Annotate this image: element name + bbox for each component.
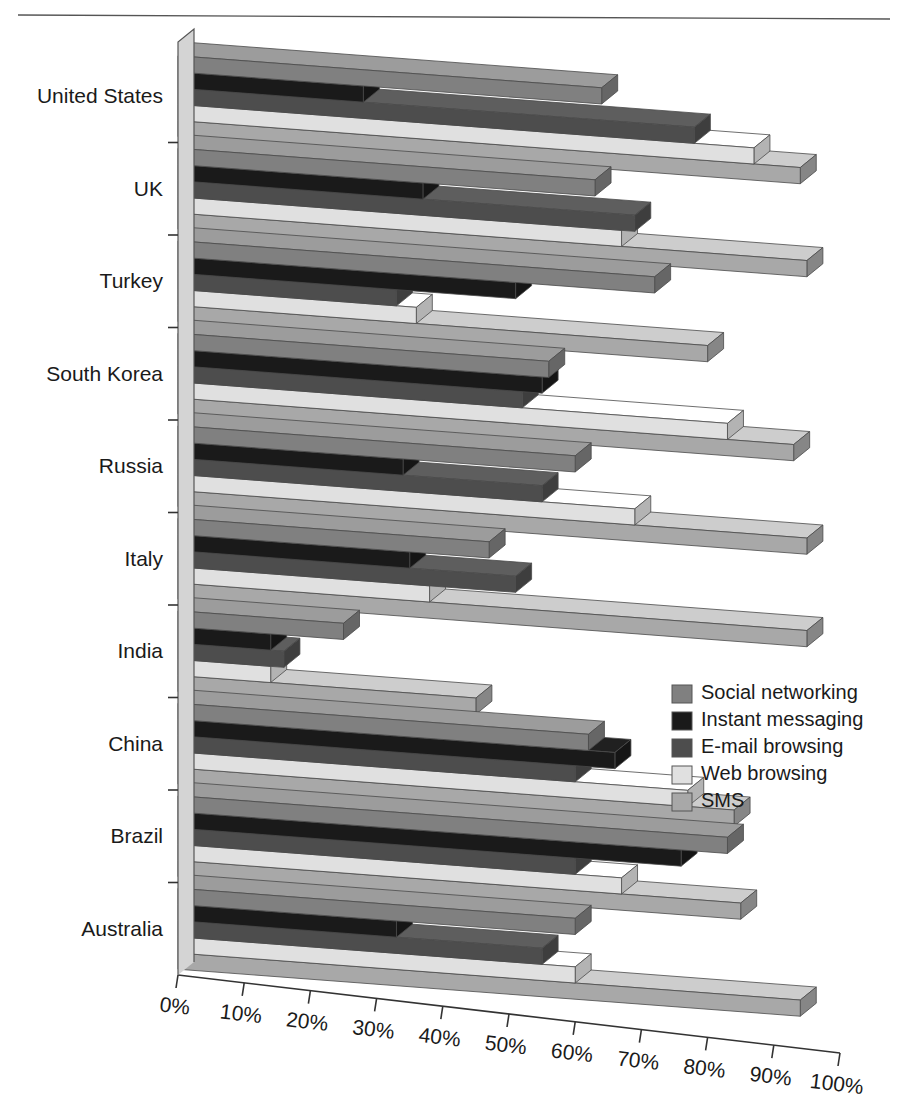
legend-label: E-mail browsing — [701, 735, 843, 757]
x-tick-label: 80% — [682, 1054, 726, 1082]
category-label: South Korea — [46, 362, 163, 385]
category-label: Italy — [124, 547, 163, 570]
category-label: Turkey — [100, 269, 164, 292]
x-tick-label: 20% — [285, 1007, 329, 1035]
category-label: Russia — [99, 454, 164, 477]
x-tick-label: 50% — [484, 1031, 528, 1059]
legend-label: Web browsing — [701, 762, 827, 784]
category-label: China — [108, 732, 163, 755]
y-axis-wall — [178, 29, 194, 975]
x-tick-label: 10% — [219, 999, 263, 1027]
chart-container: United StatesUKTurkeySouth KoreaRussiaIt… — [0, 0, 905, 1115]
legend-swatch — [672, 739, 692, 757]
x-tick-label: 0% — [158, 992, 191, 1018]
legend-swatch — [672, 712, 692, 730]
x-tick-label: 90% — [748, 1062, 792, 1090]
perspective-bar-chart: United StatesUKTurkeySouth KoreaRussiaIt… — [0, 0, 905, 1115]
legend-label: Instant messaging — [701, 708, 863, 730]
category-label: Brazil — [110, 824, 163, 847]
legend-swatch — [672, 685, 692, 703]
category-label: UK — [134, 177, 163, 200]
category-label: United States — [37, 84, 163, 107]
legend-label: Social networking — [701, 681, 858, 703]
x-tick-label: 40% — [417, 1023, 461, 1051]
legend-swatch — [672, 766, 692, 784]
x-tick-label: 30% — [351, 1015, 395, 1043]
x-tick-label: 70% — [616, 1046, 660, 1074]
legend-swatch — [672, 793, 692, 811]
x-tick-label: 60% — [550, 1038, 594, 1066]
category-label: Australia — [81, 917, 163, 940]
legend-label: SMS — [701, 789, 744, 811]
category-label: India — [117, 639, 163, 662]
